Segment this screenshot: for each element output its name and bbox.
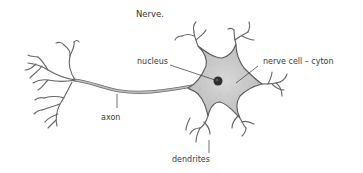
axon [74, 80, 192, 92]
cell-body [188, 44, 262, 118]
nucleus-label: nucleus [137, 57, 168, 66]
cyton-label: nerve cell – cyton [263, 57, 334, 66]
axon-terminals [25, 41, 79, 129]
neuron-diagram [0, 0, 363, 173]
diagram-title: Nerve. [136, 9, 164, 19]
nucleus [214, 77, 223, 86]
axon-label: axon [101, 113, 120, 122]
dendrites-label: dendrites [172, 155, 210, 164]
